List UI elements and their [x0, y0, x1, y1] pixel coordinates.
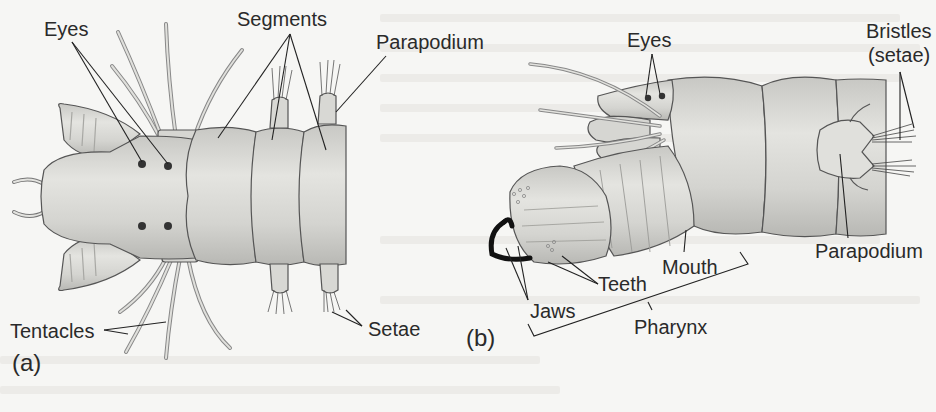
panel-letter-a: (a) [12, 350, 41, 376]
segment-1 [186, 127, 256, 264]
label-segments-a: Segments [237, 8, 327, 30]
label-bristles-b-line2: (setae) [868, 44, 930, 66]
label-teeth-b: Teeth [598, 273, 647, 295]
label-bristles-b-line1: Bristles [866, 20, 932, 42]
segment-3 [299, 125, 346, 266]
tentacles-lower [120, 258, 230, 358]
worm-b [491, 64, 916, 264]
segment-2 [251, 128, 304, 265]
head [41, 136, 196, 259]
label-mouth-b: Mouth [662, 256, 718, 278]
label-pharynx-b: Pharynx [634, 316, 707, 338]
label-parapodium-a: Parapodium [376, 31, 484, 53]
panel-letter-b: (b) [466, 325, 495, 351]
label-jaws-b: Jaws [530, 300, 576, 322]
worm-a [14, 24, 346, 358]
label-tentacles-a: Tentacles [10, 320, 95, 342]
label-eyes-b: Eyes [627, 29, 671, 51]
tentacles-upper [112, 24, 242, 138]
label-setae-a: Setae [368, 318, 420, 340]
label-parapodium-b: Parapodium [815, 240, 923, 262]
label-eyes-a: Eyes [44, 18, 88, 40]
